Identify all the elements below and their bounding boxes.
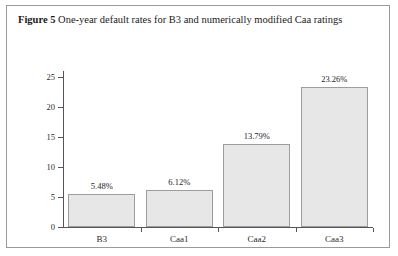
y-tick-label: 25 [31, 73, 55, 81]
y-tick-label-text: 5 [33, 193, 55, 201]
y-tick-label: 10 [31, 163, 55, 171]
y-axis-line [63, 71, 64, 228]
bar-chart-plot: 0510152025 5.48%B36.12%Caa113.79%Caa223.… [7, 6, 391, 249]
x-tick-mark [218, 228, 219, 232]
y-tick-mark [58, 77, 63, 78]
bar-value-label: 6.12% [134, 178, 225, 187]
y-tick-mark [58, 137, 63, 138]
y-tick-mark [58, 167, 63, 168]
bar-value-label: 13.79% [211, 132, 302, 141]
bar [146, 190, 213, 227]
y-tick-label-text: 25 [33, 73, 55, 81]
y-tick-label-text: 0 [33, 223, 55, 231]
bar [68, 194, 135, 227]
bar-value-label: 23.26% [289, 75, 380, 84]
category-label: Caa3 [286, 234, 384, 244]
bar [223, 144, 290, 227]
figure-frame: Figure 5 One-year default rates for B3 a… [6, 5, 390, 248]
x-tick-mark [373, 228, 374, 232]
y-tick-label: 0 [31, 223, 55, 231]
bar [301, 87, 368, 227]
y-tick-label: 15 [31, 133, 55, 141]
y-tick-label-text: 15 [33, 133, 55, 141]
y-tick-label-text: 20 [33, 103, 55, 111]
y-tick-mark [58, 227, 63, 228]
x-tick-mark [296, 228, 297, 232]
y-tick-label-text: 10 [33, 163, 55, 171]
y-tick-mark [58, 107, 63, 108]
y-tick-label: 5 [31, 193, 55, 201]
y-tick-label: 20 [31, 103, 55, 111]
x-tick-mark [141, 228, 142, 232]
y-tick-mark [58, 197, 63, 198]
